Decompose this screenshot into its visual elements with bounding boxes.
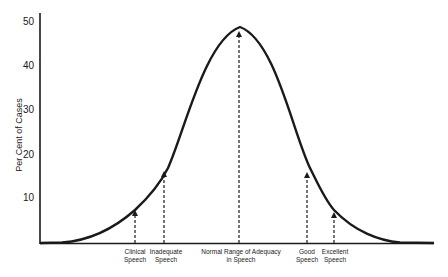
label-excellent-speech: Excellent Speech (322, 248, 348, 264)
label-line: Speech (296, 256, 318, 264)
label-line: in Speech (201, 256, 281, 264)
label-normal-range: Normal Range of Adequacy in Speech (201, 248, 281, 264)
label-line: Clinical (124, 248, 146, 256)
label-line: Normal Range of Adequacy (201, 248, 281, 256)
label-good-speech: Good Speech (296, 248, 318, 264)
label-line: Good (296, 248, 318, 256)
chart-canvas (0, 0, 448, 277)
y-tick-30: 30 (12, 104, 34, 115)
y-tick-10: 10 (12, 192, 34, 203)
label-inadequate-speech: Inadequate Speech (150, 248, 183, 264)
label-line: Speech (150, 256, 183, 264)
label-line: Speech (322, 256, 348, 264)
y-tick-40: 40 (12, 60, 34, 71)
label-line: Inadequate (150, 248, 183, 256)
label-line: Speech (124, 256, 146, 264)
distribution-curve (40, 27, 434, 243)
label-clinical-speech: Clinical Speech (124, 248, 146, 264)
y-tick-20: 20 (12, 149, 34, 160)
y-tick-50: 50 (12, 16, 34, 27)
label-line: Excellent (322, 248, 348, 256)
